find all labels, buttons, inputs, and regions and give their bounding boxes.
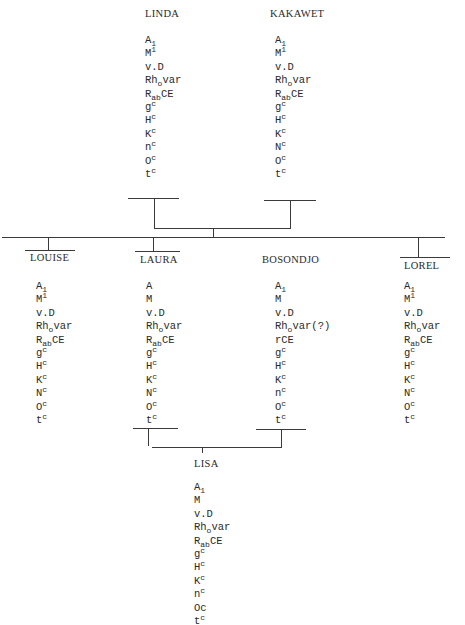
bosondjo-child-drop — [281, 429, 282, 447]
linda-drop — [154, 198, 155, 228]
laura-name: LAURA — [140, 254, 178, 265]
blood-group-marker: Rhovar(?) — [275, 320, 330, 332]
blood-group-marker: v.D — [145, 61, 164, 73]
blood-group-marker: gc — [145, 101, 156, 113]
blood-group-marker: Kc — [194, 575, 205, 587]
laura-underline — [133, 428, 178, 429]
blood-group-marker: Oc — [146, 401, 157, 413]
blood-group-marker: Kc — [36, 374, 47, 386]
blood-group-marker: tc — [146, 414, 157, 426]
blood-group-marker: Kc — [146, 374, 157, 386]
blood-group-marker: v.D — [275, 307, 294, 319]
blood-group-marker: tc — [275, 414, 286, 426]
blood-group-marker: RabCE — [146, 334, 175, 346]
parents-center-drop — [213, 228, 214, 237]
blood-group-marker: A1 — [145, 34, 156, 46]
blood-group-marker: RabCE — [275, 88, 304, 100]
blood-group-marker: Rhovar — [145, 74, 181, 86]
blood-group-marker: rCE — [275, 334, 294, 346]
blood-group-marker: nc — [275, 387, 286, 399]
laura-drop — [153, 237, 154, 251]
blood-group-marker: M1 — [145, 47, 156, 59]
kakawet-name: KAKAWET — [270, 8, 324, 19]
blood-group-marker: gc — [194, 548, 205, 560]
blood-group-marker: A1 — [36, 280, 47, 292]
blood-group-marker: Oc — [275, 155, 286, 167]
blood-group-marker: Hc — [275, 114, 286, 126]
blood-group-marker: Nc — [146, 387, 157, 399]
siblings-connector — [2, 237, 445, 238]
blood-group-marker: M1 — [275, 47, 286, 59]
lorel-drop — [418, 237, 419, 257]
blood-group-marker: Nc — [36, 387, 47, 399]
blood-group-marker: Oc — [145, 155, 156, 167]
blood-group-marker: Rhovar — [36, 320, 72, 332]
blood-group-marker: RabCE — [145, 88, 174, 100]
linda-name: LINDA — [145, 8, 179, 19]
blood-group-marker: Hc — [275, 360, 286, 372]
blood-group-marker: Oc — [275, 401, 286, 413]
blood-group-marker: tc — [275, 168, 286, 180]
blood-group-marker: Hc — [194, 561, 205, 573]
blood-group-marker: tc — [36, 414, 47, 426]
blood-group-marker: RabCE — [194, 535, 223, 547]
blood-group-marker: Oc — [404, 401, 415, 413]
blood-group-marker: gc — [146, 347, 157, 359]
blood-group-marker: nc — [145, 141, 156, 153]
blood-group-marker: tc — [404, 414, 415, 426]
lisa-name: LISA — [194, 458, 219, 469]
blood-group-marker: Hc — [36, 360, 47, 372]
blood-group-marker: M — [146, 293, 152, 305]
blood-group-marker: Rhovar — [404, 320, 440, 332]
blood-group-marker: RabCE — [36, 334, 65, 346]
blood-group-marker: Hc — [145, 114, 156, 126]
blood-group-marker: tc — [145, 168, 156, 180]
blood-group-marker: tc — [194, 615, 205, 625]
blood-group-marker: M1 — [36, 293, 47, 305]
blood-group-marker: nc — [194, 588, 205, 600]
blood-group-marker: A — [146, 280, 152, 292]
blood-group-marker: Hc — [404, 360, 415, 372]
blood-group-marker: Rhovar — [194, 521, 230, 533]
blood-group-marker: v.D — [146, 307, 165, 319]
lisa-center-drop — [202, 447, 203, 453]
blood-group-marker: Kc — [275, 128, 286, 140]
blood-group-marker: v.D — [194, 508, 213, 520]
blood-group-marker: Rhovar — [146, 320, 182, 332]
lisa-parents-connector — [152, 447, 282, 448]
kakawet-drop — [290, 200, 291, 228]
blood-group-marker: gc — [275, 101, 286, 113]
blood-group-marker: v.D — [404, 307, 423, 319]
blood-group-marker: A1 — [404, 280, 415, 292]
blood-group-marker: Kc — [275, 374, 286, 386]
laura-child-drop — [148, 428, 149, 446]
blood-group-marker: Hc — [146, 360, 157, 372]
blood-group-marker: gc — [36, 347, 47, 359]
blood-group-marker: Oc — [194, 602, 207, 614]
blood-group-marker: RabCE — [404, 334, 433, 346]
blood-group-marker: A1 — [275, 34, 286, 46]
blood-group-marker: v.D — [36, 307, 55, 319]
blood-group-marker: M — [194, 494, 200, 506]
blood-group-marker: gc — [404, 347, 415, 359]
lorel-name: LOREL — [404, 260, 439, 271]
louise-name: LOUISE — [30, 252, 69, 263]
louise-overline — [25, 250, 75, 251]
blood-group-marker: M1 — [404, 293, 415, 305]
blood-group-marker: Rhovar — [275, 74, 311, 86]
blood-group-marker: A1 — [275, 280, 286, 292]
blood-group-marker: gc — [275, 347, 286, 359]
laura-overline — [135, 251, 180, 252]
blood-group-marker: M — [275, 293, 281, 305]
blood-group-marker: Kc — [145, 128, 156, 140]
blood-group-marker: Nc — [275, 141, 286, 153]
blood-group-marker: Oc — [36, 401, 47, 413]
blood-group-marker: v.D — [275, 61, 294, 73]
bosondjo-name: BOSONDJO — [262, 254, 319, 265]
blood-group-marker: Kc — [404, 374, 415, 386]
blood-group-marker: Nc — [404, 387, 415, 399]
lorel-overline — [400, 257, 450, 258]
louise-drop — [48, 237, 49, 250]
parents-connector — [154, 228, 291, 229]
blood-group-marker: A1 — [194, 481, 205, 493]
